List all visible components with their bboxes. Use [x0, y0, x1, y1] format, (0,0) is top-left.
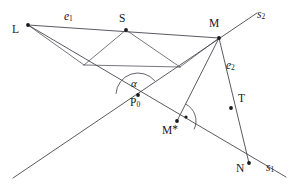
segment-S-to-vertex-right: [126, 30, 180, 67]
segment-M-to-Mstar: [177, 38, 219, 121]
segment-e1-L-to-M: [28, 25, 219, 38]
angle-label-alpha: α: [131, 78, 137, 89]
point-dot-S: [124, 28, 128, 32]
point-label-L: L: [12, 24, 19, 36]
point-label-T: T: [238, 93, 245, 105]
segment-label-e1-subscript: 1: [69, 14, 73, 23]
segment-S-to-vertex-left: [84, 30, 126, 65]
right-angle-marker-dot: [184, 115, 187, 118]
diagram-canvas: [0, 0, 292, 187]
segment-label-e2: e2: [226, 60, 235, 72]
segment-L-to-vertex-left: [28, 25, 84, 65]
geometry-diagram: L S M P0 M* T N e1 e2 s1 s2 α: [0, 0, 292, 187]
point-dot-T: [229, 106, 233, 110]
point-dot-M: [217, 36, 221, 40]
point-label-P0: P0: [130, 97, 140, 109]
point-label-N: N: [236, 163, 244, 175]
ray-label-s2: s2: [257, 9, 265, 21]
ray-label-s1: s1: [266, 162, 274, 174]
ray-label-s1-subscript: 1: [270, 165, 274, 174]
point-label-M: M: [209, 18, 219, 30]
segment-vertex-right-to-M: [180, 38, 219, 67]
point-label-S: S: [119, 13, 125, 25]
point-label-Mstar: M*: [162, 124, 178, 136]
point-dot-L: [26, 23, 30, 27]
point-label-P0-subscript: 0: [136, 100, 140, 109]
ray-label-s2-subscript: 2: [261, 12, 265, 21]
segment-label-e2-subscript: 2: [231, 63, 235, 72]
point-dot-N: [247, 161, 251, 165]
point-label-Mstar-asterisk: *: [172, 123, 178, 135]
segment-label-e1: e1: [64, 11, 73, 23]
